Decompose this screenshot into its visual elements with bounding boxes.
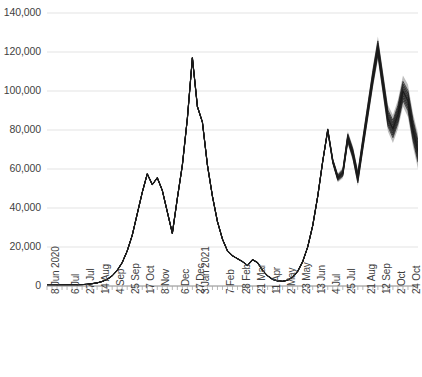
series-trajectory [47,41,418,285]
series-line-group [47,41,418,285]
series-trajectory [47,43,418,285]
uncertainty-band-inner [47,42,418,286]
uncertainty-band-outer [47,36,418,285]
series-trajectory [47,55,418,285]
series-trajectory [47,51,418,285]
forecast-band-inner [47,42,418,286]
forecast-band-outer [47,36,418,285]
series-trajectory [47,45,418,285]
series-trajectory [47,47,418,286]
x-axis-ticks [47,286,418,290]
series-trajectory [47,48,418,285]
series-trajectory [47,50,418,286]
